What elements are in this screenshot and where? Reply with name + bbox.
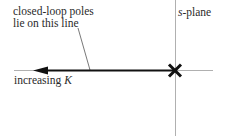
increasing-text: increasing xyxy=(14,74,64,86)
annotation-line-2: lie on this line xyxy=(13,17,94,29)
root-locus-diagram: closed-loop poles lie on this line incre… xyxy=(0,0,225,136)
annotation-text: closed-loop poles lie on this line xyxy=(13,5,94,29)
annotation-leader-line xyxy=(78,28,90,70)
s-plane-label: s-plane xyxy=(178,6,211,18)
increasing-k-label: increasing K xyxy=(14,74,72,86)
annotation-line-1: closed-loop poles xyxy=(13,5,94,17)
plane-suffix: -plane xyxy=(182,6,211,18)
gain-variable: K xyxy=(64,74,72,86)
